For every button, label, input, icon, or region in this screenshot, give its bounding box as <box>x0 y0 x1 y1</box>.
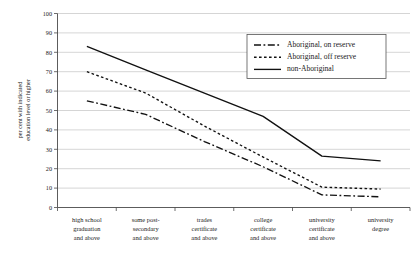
x-tick-label-line: university <box>368 216 394 223</box>
x-tick-label-line: and above <box>74 234 100 241</box>
x-tick-label-line: degree <box>372 225 389 232</box>
y-axis-title: per cent with indicatededucation level o… <box>16 79 31 141</box>
x-tick-label-line: university <box>309 216 335 223</box>
y-tick-label: 60 <box>46 87 52 94</box>
x-tick-label-line: certificate <box>192 225 218 232</box>
series-line <box>87 72 381 189</box>
x-tick-label-line: high school <box>72 216 102 223</box>
y-tick-label: 50 <box>46 107 52 114</box>
x-tick-label-line: certificate <box>309 225 335 232</box>
y-tick-label: 80 <box>46 49 52 56</box>
x-tick-label-line: and above <box>191 234 217 241</box>
x-tick-label-line: college <box>254 216 273 223</box>
y-tick-label: 0 <box>49 204 52 211</box>
x-tick-label-line: certificate <box>250 225 276 232</box>
y-tick-label: 90 <box>46 29 52 36</box>
x-tick-labels: high schoolgraduationand abovesome post-… <box>72 216 394 241</box>
x-tick-label-line: and above <box>250 234 276 241</box>
series-line <box>87 101 381 197</box>
legend-label: Aboriginal, off reserve <box>287 52 357 61</box>
y-tick-label: 40 <box>46 126 52 133</box>
y-tick-label: 20 <box>46 165 52 172</box>
y-axis-title-line: per cent with indicated <box>16 81 23 138</box>
x-tick-label-line: and above <box>309 234 335 241</box>
y-axis: 0102030405060708090100 <box>43 10 58 211</box>
x-tick-label-line: some post- <box>132 216 160 223</box>
x-tick-label-line: graduation <box>73 225 101 232</box>
x-tick-label-line: secondary <box>133 225 160 232</box>
legend-label: non-Aboriginal <box>287 64 334 73</box>
y-tick-label: 30 <box>46 146 52 153</box>
legend: Aboriginal, on reserveAboriginal, off re… <box>247 35 386 79</box>
x-axis <box>58 208 411 212</box>
legend-label: Aboriginal, on reserve <box>287 40 356 49</box>
x-tick-label-line: trades <box>197 216 213 223</box>
chart-figure: 0102030405060708090100high schoolgraduat… <box>0 0 417 253</box>
y-tick-label: 70 <box>46 68 52 75</box>
y-axis-title-line: education level or higher <box>24 79 31 141</box>
line-chart: 0102030405060708090100high schoolgraduat… <box>0 0 417 253</box>
y-tick-label: 10 <box>46 184 52 191</box>
x-tick-label-line: and above <box>133 234 159 241</box>
y-tick-label: 100 <box>43 10 52 17</box>
